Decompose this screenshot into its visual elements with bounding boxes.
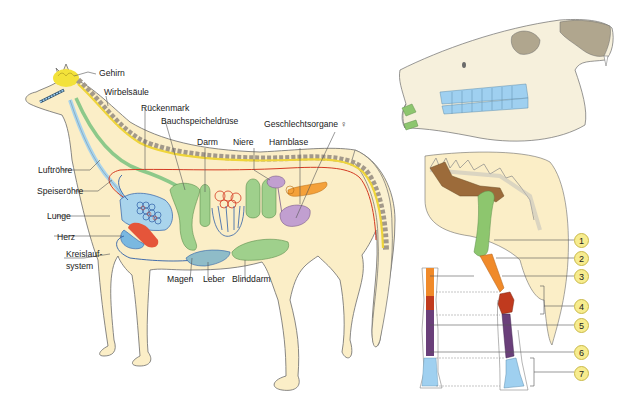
cannon-bone [502, 314, 514, 358]
label-niere: Niere [233, 138, 254, 147]
hoof-bones [504, 358, 524, 388]
horse-body [26, 64, 395, 390]
label-darm: Darm [197, 138, 218, 147]
label-kreislauf-1: Kreislauf- [66, 250, 102, 259]
label-bauchspeicheldruese: Bauchspeicheldrüse [161, 117, 238, 126]
badge-3: 3 [574, 269, 589, 284]
tarsus-bone [498, 292, 514, 314]
badge-2: 2 [574, 251, 589, 266]
tibia-bone [480, 254, 504, 292]
badge-7: 7 [574, 366, 589, 381]
label-rueckenmark: Rückenmark [141, 104, 189, 113]
anatomy-illustration [0, 0, 633, 410]
label-gehirn: Gehirn [99, 69, 125, 78]
label-leber: Leber [203, 275, 225, 284]
label-wirbelsaeule: Wirbelsäule [104, 88, 149, 97]
brain-shape [53, 69, 79, 87]
badge-1: 1 [574, 233, 589, 248]
label-harnblase: Harnblase [269, 138, 308, 147]
badge-4: 4 [574, 299, 589, 314]
label-kreislauf-2: system [66, 262, 93, 271]
hindquarter-skeleton [420, 152, 574, 390]
label-luftroehre: Luftröhre [38, 166, 72, 175]
badge-5: 5 [574, 318, 589, 333]
label-blinddarm: Blinddarm [232, 275, 271, 284]
label-geschlechtsorgane: Geschlechtsorgane ♀ [264, 120, 347, 129]
badge-6: 6 [574, 345, 589, 360]
label-lunge: Lunge [47, 212, 71, 221]
label-herz: Herz [57, 233, 75, 242]
skull-drawing [399, 19, 613, 141]
kidney-shape [267, 176, 285, 188]
label-magen: Magen [167, 275, 193, 284]
label-speiseroehre: Speiseröhre [37, 187, 83, 196]
